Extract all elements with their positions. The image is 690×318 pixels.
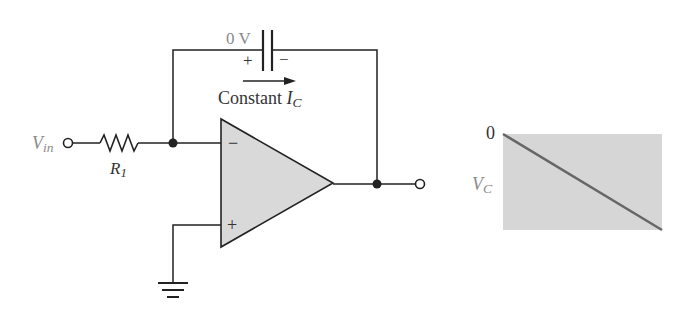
ic-sub: C (293, 95, 302, 110)
opamp-inverting-label: − (228, 134, 238, 152)
graph-vc-label: VC (472, 175, 492, 196)
r1-main: R (110, 159, 120, 178)
opamp-noninverting-label: + (227, 216, 237, 234)
resistor-r1 (100, 135, 138, 151)
r1-sub: 1 (120, 166, 126, 180)
constant-current-label: Constant IC (218, 89, 302, 110)
output-terminal (416, 180, 425, 189)
constant-text: Constant (218, 88, 287, 108)
input-terminal (64, 139, 73, 148)
output-node (373, 180, 382, 189)
schematic (0, 0, 690, 318)
vin-main: V (32, 133, 43, 153)
capacitor-plus: + (243, 52, 253, 69)
r1-label: R1 (110, 160, 127, 180)
graph-zero-label: 0 (486, 124, 495, 142)
capacitor-minus: − (279, 51, 289, 68)
capacitor-voltage-label: 0 V (226, 30, 251, 47)
ground-icon (158, 283, 188, 297)
ground-wire (173, 225, 221, 283)
vin-label: Vin (32, 134, 54, 155)
vc-main: V (472, 174, 483, 194)
vin-sub: in (43, 140, 54, 155)
vc-sub: C (483, 181, 492, 196)
arrow-head-icon (284, 77, 296, 85)
